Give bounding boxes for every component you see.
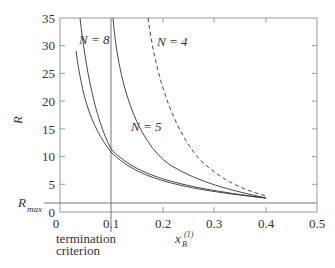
label-n8: N = 8 bbox=[78, 32, 110, 47]
y-ticks bbox=[60, 46, 317, 185]
ytick-30: 30 bbox=[42, 38, 55, 53]
x-axis-label-main: x bbox=[174, 231, 181, 246]
x-axis-label-sub: B bbox=[182, 240, 187, 249]
ytick-20: 20 bbox=[42, 94, 55, 109]
xtick-0: 0 bbox=[53, 216, 60, 231]
rmax-label-sub: max bbox=[27, 204, 42, 214]
curve-n8-lower bbox=[76, 51, 266, 198]
ytick-25: 25 bbox=[42, 66, 55, 81]
ytick-15: 15 bbox=[42, 122, 55, 137]
xtick-0.5: 0.5 bbox=[309, 216, 325, 231]
y-axis-label: R bbox=[10, 116, 25, 125]
rmax-label-main: R bbox=[17, 195, 26, 210]
chart: 35 30 25 20 15 10 5 0 0 0.1 0.2 0.3 0.4 … bbox=[0, 0, 335, 268]
x-axis-label-sup: (1) bbox=[184, 230, 194, 239]
xtick-0.3: 0.3 bbox=[206, 216, 222, 231]
ytick-5: 5 bbox=[49, 177, 56, 192]
plot-frame bbox=[60, 18, 317, 212]
ytick-10: 10 bbox=[42, 149, 55, 164]
curve-n5 bbox=[113, 18, 266, 198]
termination-label-line2: criterion bbox=[56, 243, 101, 258]
xtick-0.4: 0.4 bbox=[258, 216, 275, 231]
xtick-0.2: 0.2 bbox=[155, 216, 171, 231]
label-n5: N = 5 bbox=[130, 119, 162, 134]
label-n4: N = 4 bbox=[156, 34, 188, 49]
ytick-35: 35 bbox=[42, 11, 55, 26]
